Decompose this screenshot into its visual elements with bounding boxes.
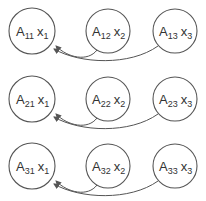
row-1: A11x1 A12x2 A13x3 [9,8,197,61]
edge-2-to-1 [56,181,97,192]
node-a12: A12x2 [86,9,130,53]
node-a11: A11x1 [9,8,55,54]
node-a22: A22x2 [86,77,130,121]
node-a21: A21x1 [9,76,55,122]
node-a23: A23x3 [153,77,197,121]
row-3: A31x1 A32x2 A33x3 [9,143,197,196]
edge-2-to-1 [56,46,97,57]
node-a33: A33x3 [153,144,197,188]
node-a32: A32x2 [86,144,130,188]
node-a13: A13x3 [153,9,197,53]
diagram-canvas: A11x1 A12x2 A13x3 A21x1 A22x2 A23x3 [0,0,206,201]
row-2: A21x1 A22x2 A23x3 [9,76,197,129]
node-a31: A31x1 [9,143,55,189]
edge-2-to-1 [56,114,97,125]
